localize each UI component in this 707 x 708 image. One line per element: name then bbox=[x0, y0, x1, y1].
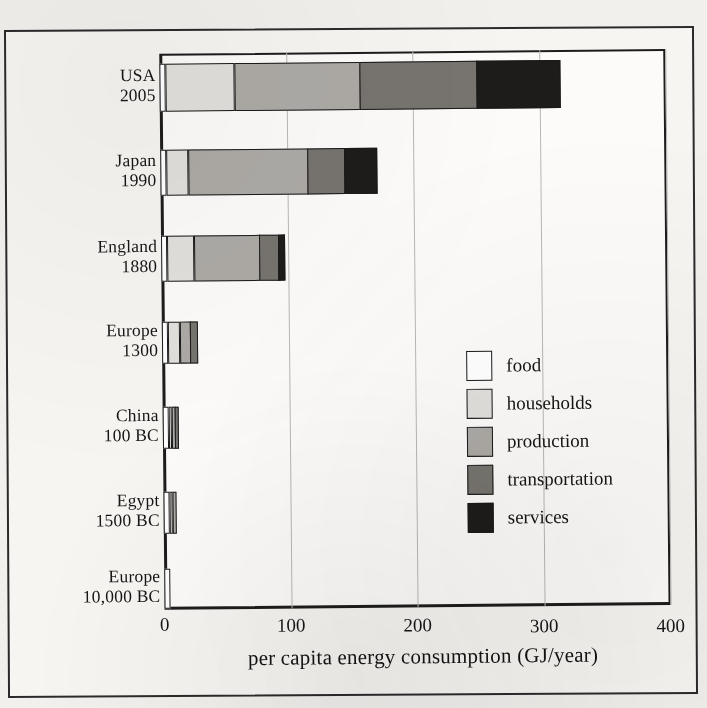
legend-label: services bbox=[508, 506, 569, 529]
legend-swatch-transportation bbox=[467, 465, 493, 495]
legend-label: households bbox=[507, 392, 593, 415]
bar-segment-transportation[interactable] bbox=[190, 321, 198, 363]
category-label-line: USA bbox=[5, 66, 155, 87]
bar-row[interactable] bbox=[161, 235, 285, 282]
x-tick-label-200: 200 bbox=[388, 614, 448, 637]
category-label-line: 1300 bbox=[8, 340, 158, 361]
legend-label: production bbox=[507, 430, 590, 453]
bar-row[interactable] bbox=[162, 321, 198, 363]
legend-item-transportation[interactable]: transportation bbox=[467, 459, 677, 499]
bar-row[interactable] bbox=[159, 60, 560, 112]
category-label: Europe10,000 BC bbox=[10, 567, 160, 608]
x-tick-label-0: 0 bbox=[135, 614, 195, 637]
category-label-line: Egypt bbox=[9, 491, 159, 512]
bar-segment-transportation[interactable] bbox=[174, 407, 178, 449]
bar-segment-services[interactable] bbox=[477, 60, 561, 109]
bar-segment-services[interactable] bbox=[345, 148, 378, 194]
category-label: Japan1990 bbox=[6, 151, 156, 192]
bar-segment-services[interactable] bbox=[278, 235, 285, 281]
bar-segment-transportation[interactable] bbox=[360, 61, 478, 110]
bar-segment-transportation[interactable] bbox=[259, 235, 280, 281]
legend-swatch-households bbox=[466, 389, 492, 419]
legend: foodhouseholdsproductiontransportationse… bbox=[466, 345, 678, 537]
bar-segment-households[interactable] bbox=[166, 150, 189, 196]
bar-row[interactable] bbox=[163, 407, 179, 449]
legend-label: food bbox=[506, 354, 541, 376]
category-label-line: 1990 bbox=[6, 170, 156, 191]
bar-row[interactable] bbox=[163, 492, 176, 534]
legend-item-households[interactable]: households bbox=[466, 383, 676, 423]
legend-item-food[interactable]: food bbox=[466, 345, 676, 385]
bar-row[interactable] bbox=[164, 569, 171, 609]
category-label-line: 2005 bbox=[6, 85, 156, 106]
category-label-line: 10,000 BC bbox=[10, 586, 160, 607]
category-axis-labels: USA2005Japan1990England1880Europe1300Chi… bbox=[0, 2, 160, 559]
x-axis-title: per capita energy consumption (GJ/year) bbox=[153, 642, 693, 672]
bar-segment-production[interactable] bbox=[194, 235, 260, 282]
legend-swatch-services bbox=[468, 503, 494, 533]
category-label: China100 BC bbox=[9, 406, 159, 447]
category-label-line: England bbox=[7, 237, 157, 258]
x-tick-label-400: 400 bbox=[641, 615, 701, 638]
legend-item-services[interactable]: services bbox=[468, 497, 678, 537]
category-label-line: 1880 bbox=[7, 256, 157, 277]
legend-swatch-production bbox=[467, 427, 493, 457]
category-label: Europe1300 bbox=[8, 321, 158, 362]
bar-segment-production[interactable] bbox=[172, 492, 176, 534]
category-label: USA2005 bbox=[5, 66, 155, 107]
bar-segment-production[interactable] bbox=[188, 148, 309, 195]
category-label: England1880 bbox=[7, 237, 157, 278]
bar-segment-households[interactable] bbox=[167, 235, 195, 281]
category-label: Egypt1500 BC bbox=[9, 491, 159, 532]
bar-segment-production[interactable] bbox=[234, 62, 361, 111]
bar-chart-figure: USA2005Japan1990England1880Europe1300Chi… bbox=[0, 0, 707, 708]
legend-swatch-food bbox=[466, 351, 492, 381]
bar-row[interactable] bbox=[160, 148, 378, 196]
x-tick-label-100: 100 bbox=[261, 614, 321, 637]
category-label-line: 100 BC bbox=[9, 425, 159, 446]
legend-label: transportation bbox=[507, 467, 613, 490]
category-label-line: 1500 BC bbox=[10, 510, 160, 531]
category-label-line: China bbox=[9, 406, 159, 427]
bar-segment-food[interactable] bbox=[164, 569, 171, 609]
category-label-line: Europe bbox=[8, 321, 158, 342]
bar-segment-transportation[interactable] bbox=[307, 148, 345, 194]
scanned-page: USA2005Japan1990England1880Europe1300Chi… bbox=[0, 0, 707, 708]
bar-segment-households[interactable] bbox=[165, 63, 235, 112]
category-label-line: Europe bbox=[10, 567, 160, 588]
legend-item-production[interactable]: production bbox=[467, 421, 677, 461]
category-label-line: Japan bbox=[6, 151, 156, 172]
x-tick-label-300: 300 bbox=[514, 615, 574, 638]
